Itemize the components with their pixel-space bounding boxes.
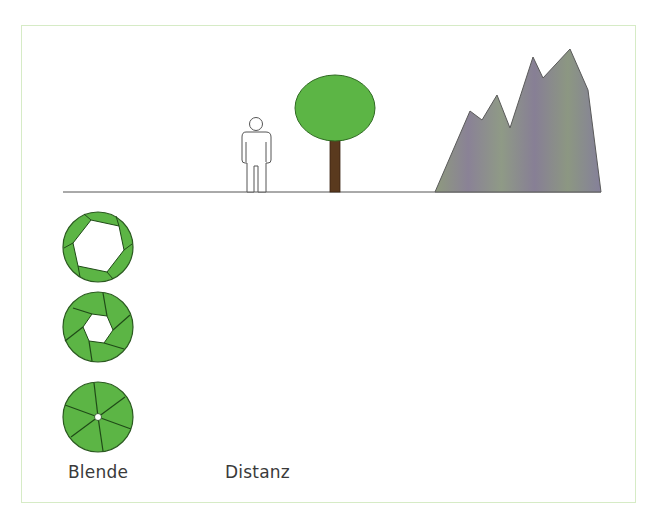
tree-icon	[295, 75, 375, 192]
mountain-icon	[435, 49, 601, 192]
aperture-medium-icon	[63, 292, 133, 362]
person-icon	[242, 118, 271, 193]
diagram-canvas	[0, 0, 664, 519]
aperture-small-icon	[63, 382, 133, 452]
aperture-wide-icon	[63, 212, 133, 282]
aperture-label: Blende	[68, 462, 128, 482]
distance-label: Distanz	[225, 462, 290, 482]
